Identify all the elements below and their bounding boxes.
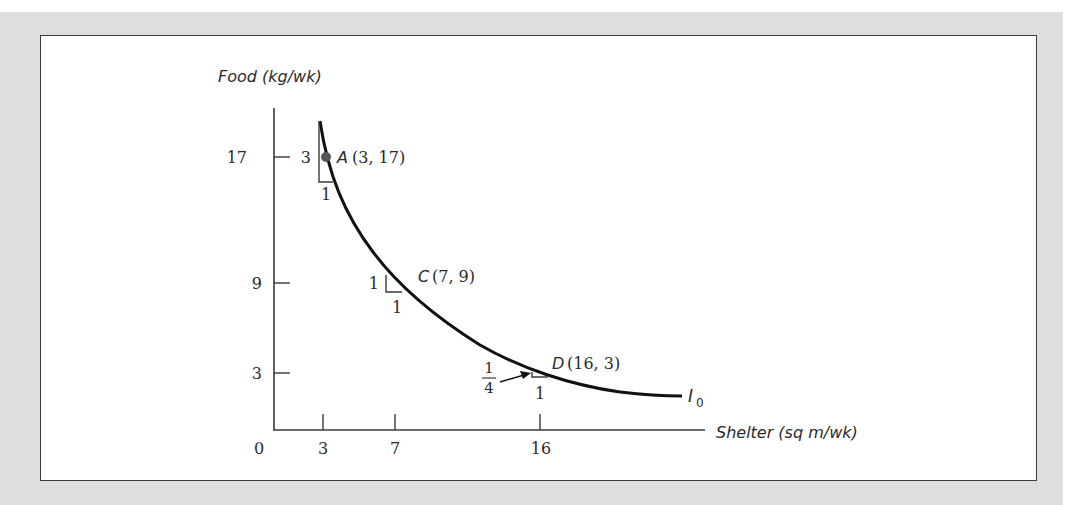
point-a-letter: A bbox=[336, 148, 348, 167]
slope-d-rise-denominator: 4 bbox=[484, 379, 494, 397]
point-a-group: 3 1 A (3, 17) bbox=[301, 121, 405, 204]
x-tick-label-7: 7 bbox=[390, 439, 400, 458]
point-a-marker bbox=[321, 152, 331, 162]
slope-c-rise: 1 bbox=[369, 274, 379, 293]
slope-a-rise: 3 bbox=[301, 148, 311, 167]
curve-label-subscript: 0 bbox=[696, 396, 704, 410]
point-d-coords: (16, 3) bbox=[567, 354, 620, 373]
x-tick-label-3: 3 bbox=[318, 439, 328, 458]
y-axis-label: Food (kg/wk) bbox=[218, 67, 322, 86]
y-tick-label-3: 3 bbox=[252, 364, 262, 383]
arrow-line bbox=[500, 375, 524, 382]
point-c-letter: C bbox=[418, 267, 430, 286]
x-axis-label: Shelter (sq m/wk) bbox=[716, 423, 858, 442]
point-c-coords: (7, 9) bbox=[432, 267, 475, 286]
slope-c-run: 1 bbox=[392, 298, 402, 317]
point-a-coords: (3, 17) bbox=[352, 148, 405, 167]
curve-label-i: I bbox=[688, 386, 693, 406]
slope-d-run: 1 bbox=[535, 384, 545, 403]
indifference-curve-chart: Food (kg/wk) Shelter (sq m/wk) 17 9 3 0 … bbox=[0, 0, 1077, 505]
x-tick-label-16: 16 bbox=[531, 439, 551, 458]
y-tick-label-9: 9 bbox=[252, 274, 262, 293]
slope-d-rise-numerator: 1 bbox=[484, 359, 494, 377]
origin-label: 0 bbox=[254, 439, 264, 458]
arrow-head-icon bbox=[520, 371, 531, 379]
y-tick-label-17: 17 bbox=[227, 148, 247, 167]
slope-a-run: 1 bbox=[321, 185, 331, 204]
point-d-letter: D bbox=[552, 354, 564, 373]
point-c-group: 1 1 C (7, 9) bbox=[369, 267, 475, 317]
point-d-group: 1 1 4 D (16, 3) bbox=[482, 354, 620, 403]
